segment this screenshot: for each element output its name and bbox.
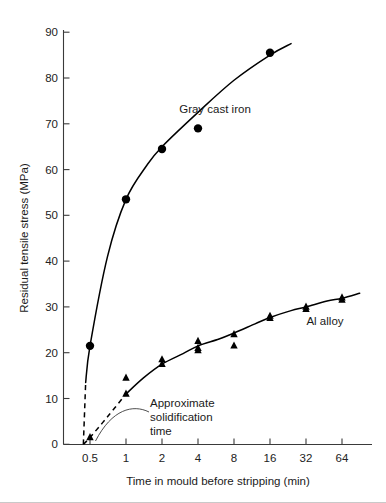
y-tick-label: 10 [45,393,58,405]
x-tick-label: 16 [264,452,277,464]
x-tick-marks [90,439,342,445]
y-tick-label: 70 [45,118,58,130]
data-point-circle [158,145,166,153]
y-tick-label: 50 [45,209,58,221]
annotation-line-1: Approximate [150,397,215,409]
x-tick-label: 32 [300,452,313,464]
x-tick-label: 0.5 [82,452,98,464]
y-tick-label: 0 [52,438,58,450]
y-tick-label: 90 [45,26,58,38]
series-label-gray-cast-iron: Gray cast iron [179,103,251,115]
x-tick-label: 2 [159,452,165,464]
y-tick-label: 40 [45,255,58,267]
data-point-circle [194,124,202,132]
fit-curve [86,44,291,383]
y-tick-label: 80 [45,72,58,84]
x-axis-title: Time in mould before stripping (min) [126,475,310,487]
residual-stress-vs-mould-time-chart: 90 80 70 60 50 40 30 20 10 0 0.5 1 2 [0,0,386,503]
extrapolation-dashed-curve [83,382,85,444]
y-axis-title: Residual tensile stress (MPa) [18,163,30,313]
data-point-circle [86,342,94,350]
y-tick-label: 30 [45,301,58,313]
annotation-line-3: time [150,425,172,437]
x-tick-label: 8 [231,452,237,464]
data-point-triangle [230,341,237,348]
data-point-triangle [266,312,273,319]
data-point-triangle [158,355,165,362]
x-tick-label: 1 [123,452,129,464]
data-point-circle [122,195,130,203]
y-tick-labels: 90 80 70 60 50 40 30 20 10 0 [45,26,58,450]
fit-curve [126,293,360,394]
x-tick-label: 4 [195,452,202,464]
axes [64,30,373,445]
solidification-time-annotation: Approximate solidification time [96,397,215,441]
y-tick-marks [64,32,70,444]
y-tick-label: 60 [45,164,58,176]
annotation-leader-line [96,409,150,441]
data-point-circle [266,49,274,57]
chart-figure: 90 80 70 60 50 40 30 20 10 0 0.5 1 2 [0,0,386,503]
annotation-line-2: solidification [150,411,213,423]
series-label-al-alloy: Al alloy [306,315,343,327]
y-tick-label: 20 [45,347,58,359]
data-point-triangle [122,373,129,380]
x-tick-labels: 0.5 1 2 4 8 16 32 64 [82,452,349,464]
data-point-triangle [194,337,201,344]
x-tick-label: 64 [336,452,349,464]
